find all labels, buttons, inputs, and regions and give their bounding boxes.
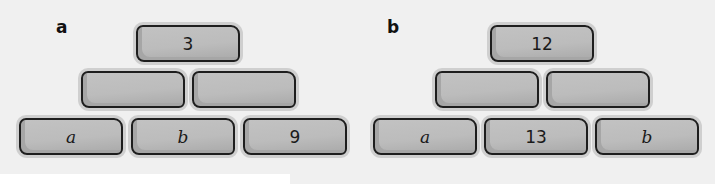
brick-bottom-middle: 13 <box>484 118 588 155</box>
brick-bottom-left: a <box>373 118 477 155</box>
brick-top: 12 <box>490 25 594 62</box>
brick-bottom-left: a <box>19 118 123 155</box>
brick-value: 13 <box>525 127 547 147</box>
brick-value: b <box>178 127 189 147</box>
brick-bottom-right: 9 <box>243 118 347 155</box>
brick-bottom-middle: b <box>131 118 235 155</box>
brick-value: 9 <box>290 127 301 147</box>
brick-middle-left <box>435 71 539 108</box>
brick-middle-right <box>546 71 650 108</box>
brick-value: a <box>66 127 76 147</box>
brick-middle-left <box>81 71 185 108</box>
brick-value: b <box>642 127 653 147</box>
brick-top: 3 <box>136 25 240 62</box>
pyramid-label: b <box>387 17 399 37</box>
brick-value: a <box>420 127 430 147</box>
page-edge-strip <box>0 174 290 184</box>
brick-value: 3 <box>183 34 194 54</box>
brick-bottom-right: b <box>595 118 699 155</box>
pyramid-label: a <box>56 17 67 37</box>
brick-middle-right <box>192 71 296 108</box>
brick-value: 12 <box>531 34 553 54</box>
